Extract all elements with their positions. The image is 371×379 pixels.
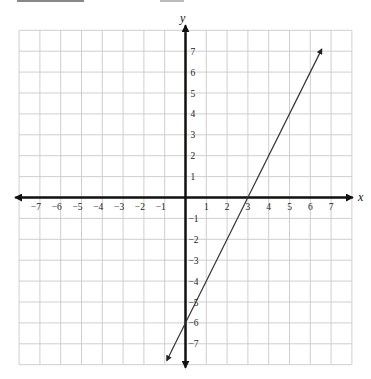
y-tick-label: −7: [189, 339, 199, 349]
y-tick-label: 6: [191, 68, 196, 78]
x-tick-label: −7: [31, 202, 41, 212]
x-tick-label: −4: [93, 202, 103, 212]
y-tick-label: 3: [191, 130, 196, 140]
y-tick-label: −1: [189, 214, 199, 224]
x-tick-label: 5: [287, 202, 292, 212]
x-tick-label: 1: [204, 202, 209, 212]
x-axis-label: x: [357, 190, 364, 204]
x-tick-label: −5: [72, 202, 82, 212]
x-tick-label: −2: [135, 202, 145, 212]
x-tick-label: 7: [329, 202, 334, 212]
x-tick-label: −1: [156, 202, 166, 212]
x-tick-label: 6: [308, 202, 313, 212]
x-tick-label: 3: [246, 202, 251, 212]
y-tick-label: 1: [191, 172, 196, 182]
x-tick-label: 2: [225, 202, 230, 212]
y-tick-label: 2: [191, 151, 196, 161]
y-tick-label: −3: [189, 256, 199, 266]
axes: [15, 25, 353, 367]
y-tick-label: 4: [191, 109, 196, 119]
y-tick-label: −4: [189, 277, 199, 287]
line-series-lower: [167, 205, 244, 361]
y-tick-label: −2: [189, 235, 199, 245]
y-tick-label: −6: [189, 318, 199, 328]
coordinate-plane: −7−6−5−4−3−2−112345677654321−1−2−3−4−5−6…: [0, 0, 371, 379]
y-tick-label: 5: [191, 89, 196, 99]
x-tick-label: −6: [52, 202, 62, 212]
x-tick-label: 4: [266, 202, 271, 212]
y-tick-label: 7: [191, 47, 196, 57]
x-tick-label: −3: [114, 202, 124, 212]
y-axis-label: y: [179, 11, 186, 25]
